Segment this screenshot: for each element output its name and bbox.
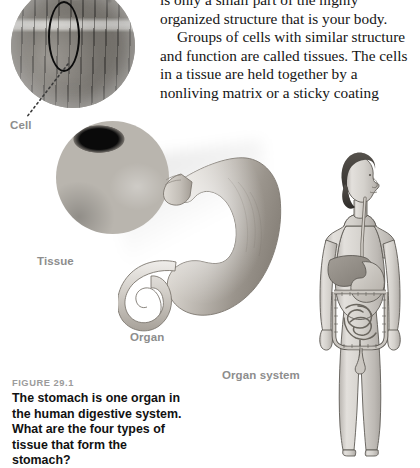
cell-highlight-ellipse-icon — [48, 1, 80, 72]
label-organ: Organ — [130, 331, 164, 343]
body-paragraph-1: is only a small part of the highly organ… — [160, 0, 416, 28]
figure-number: FIGURE 29.1 — [12, 378, 184, 388]
label-tissue: Tissue — [37, 255, 74, 267]
body-paragraph-2: Groups of cells with similar structure a… — [160, 28, 416, 102]
figure-caption: FIGURE 29.1 The stomach is one organ in … — [12, 378, 184, 468]
body-text-column: is only a small part of the highly organ… — [160, 0, 416, 103]
duodenum-shape — [118, 261, 176, 331]
label-cell: Cell — [10, 119, 32, 131]
human-body-illustration — [300, 140, 418, 458]
caption-text: The stomach is one organ in the human di… — [12, 391, 184, 468]
label-organ-system: Organ system — [222, 369, 300, 381]
stomach-illustration — [118, 152, 286, 338]
